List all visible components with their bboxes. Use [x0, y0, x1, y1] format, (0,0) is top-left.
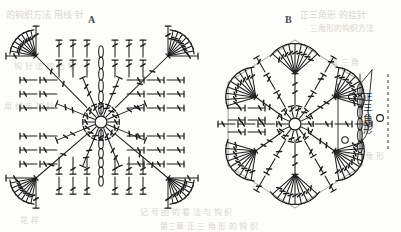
center-to-corner-stitch-4 [254, 133, 281, 154]
center-chain-loop [99, 158, 104, 168]
spoke-stitch [56, 101, 87, 116]
row-stitch-left [248, 105, 265, 111]
pattern-drawing [0, 0, 401, 232]
col-stitch-bottom-2 [84, 177, 90, 194]
callout-line [362, 70, 372, 82]
col-stitch-top-6 [140, 60, 146, 77]
radial-stitch [264, 73, 275, 89]
row-stitch-left-6 [20, 161, 37, 167]
treble-stitch-r1 [299, 130, 308, 140]
col-stitch-bottom-5 [126, 157, 132, 174]
center-to-corner-stitch-3 [292, 140, 298, 174]
radial-stitch [254, 176, 265, 192]
treble-stitch-r1 [301, 114, 312, 121]
treble-stitch-r1 [282, 108, 291, 118]
row-stitch-left-2 [20, 105, 37, 111]
col-stitch-top-0 [56, 60, 62, 77]
col-stitch-top-5 [126, 60, 132, 77]
col-stitch-bottom-5 [126, 177, 132, 194]
treble-stitch-r1 [288, 131, 294, 142]
col-stitch-top-1 [70, 40, 76, 57]
radial-stitch [315, 159, 326, 175]
col-stitch-top-2 [84, 40, 90, 57]
row-stitch-left-5 [40, 147, 57, 153]
row-stitch-right-2 [147, 105, 164, 111]
row-stitch-right-5 [167, 147, 184, 153]
center-chain-loop [99, 148, 104, 158]
spoke-stitch [107, 77, 122, 108]
treble-stitch-r1 [277, 114, 288, 121]
col-stitch-top-4 [112, 40, 118, 57]
col-stitch-top-1 [70, 60, 76, 77]
treble-stitch-r1 [296, 131, 301, 142]
center-chain-loop [99, 167, 104, 177]
col-stitch-top-4 [112, 60, 118, 77]
center-chain-loop [99, 68, 104, 80]
center-ring [289, 118, 301, 130]
col-stitch-top-6 [140, 40, 146, 57]
treble-stitch-r1 [108, 119, 119, 124]
radial-stitch [264, 159, 275, 175]
center-to-corner-stitch-0 [292, 74, 298, 108]
col-stitch-bottom-6 [140, 157, 146, 174]
center-to-corner-stitch-0 [34, 54, 87, 108]
row-stitch-left-1 [20, 91, 37, 97]
radial-stitch [315, 121, 332, 127]
row-stitch-left-0 [20, 77, 37, 83]
radial-stitch [325, 56, 336, 72]
col-stitch-bottom-6 [140, 177, 146, 194]
col-stitch-top-0 [56, 40, 62, 57]
row-stitch-right-0 [147, 77, 164, 83]
row-stitch-right-1 [167, 91, 184, 97]
treble-stitch-r1 [301, 127, 312, 134]
radial-stitch [315, 73, 326, 89]
row-stitch-left [248, 129, 265, 135]
row-stitch-right-0 [167, 77, 184, 83]
chain-stitch-circle [377, 115, 384, 122]
row-stitch-right-1 [127, 91, 144, 97]
col-stitch-top-5 [126, 40, 132, 57]
row-stitch-right-4 [147, 133, 164, 139]
center-chain-loop [99, 176, 104, 186]
row-stitch-left-5 [20, 147, 37, 153]
treble-stitch-r1 [277, 121, 288, 126]
radial-stitch [274, 141, 285, 157]
center-chain-loop [99, 80, 104, 92]
row-stitch-right-1 [147, 91, 164, 97]
treble-stitch-r1 [288, 106, 293, 117]
col-stitch-bottom-1 [70, 157, 76, 174]
center-chain-loop [99, 91, 104, 103]
pattern-chart-page: 的钩织方法 用线 针正三角形 的挂针三角形的钩织方法钩 针 法 的 记 号第 三… [0, 0, 401, 232]
treble-stitch-r1 [302, 121, 313, 126]
center-to-corner-stitch-1 [309, 95, 336, 116]
spoke-stitch [56, 128, 87, 143]
row-stitch-left-2 [40, 105, 57, 111]
radial-stitch [218, 121, 235, 127]
row-stitch-right-5 [147, 147, 164, 153]
row-stitch-left [228, 105, 245, 111]
radial-stitch [325, 176, 336, 192]
row-stitch-right-4 [167, 133, 184, 139]
radial-stitch [274, 90, 285, 106]
radial-stitch [305, 141, 316, 157]
center-chain-loop [99, 57, 104, 69]
center-chain-loop [99, 46, 104, 58]
row-stitch-right-2 [167, 105, 184, 111]
row-stitch-left [228, 129, 245, 135]
row-stitch-right-5 [127, 147, 144, 153]
row-stitch-right-6 [167, 161, 184, 167]
row-stitch-left-1 [40, 91, 57, 97]
col-stitch-top-2 [84, 60, 90, 77]
chain-stitch-circle [342, 137, 348, 143]
callout-line [368, 70, 372, 112]
radial-stitch [254, 56, 265, 72]
row-stitch-left-4 [20, 133, 37, 139]
center-ring [95, 116, 107, 128]
col-stitch-bottom-4 [112, 177, 118, 194]
row-stitch-right-6 [127, 161, 144, 167]
row-stitch-left-4 [40, 133, 57, 139]
row-stitch-left-0 [40, 77, 57, 83]
col-stitch-bottom-0 [56, 177, 62, 194]
treble-stitch-r1 [83, 119, 94, 124]
treble-stitch-r1 [277, 127, 288, 134]
